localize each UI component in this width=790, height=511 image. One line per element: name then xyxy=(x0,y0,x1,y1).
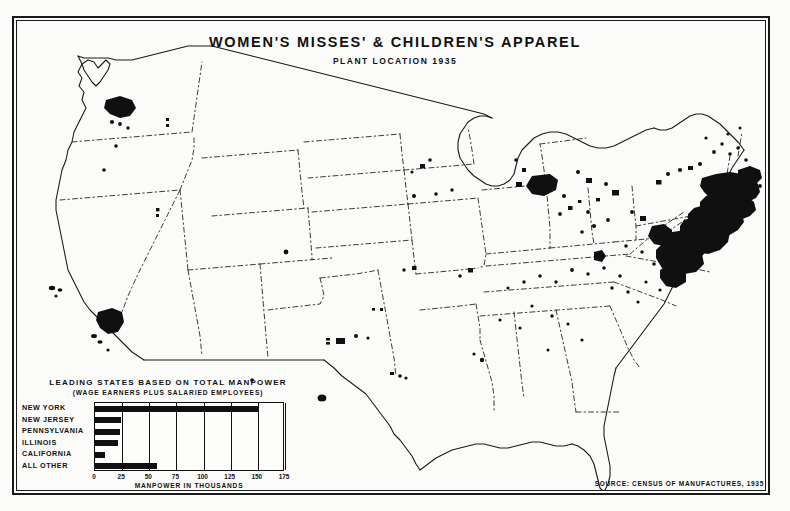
chart-gridline xyxy=(231,403,232,470)
legend-subheading: (WAGE EARNERS PLUS SALARIED EMPLOYEES) xyxy=(46,389,290,396)
chart-gridline xyxy=(149,403,150,470)
source-credit: SOURCE: CENSUS OF MANUFACTURES, 1935 xyxy=(595,480,764,487)
chart-tick-label: 150 xyxy=(252,473,263,480)
chart-gridline xyxy=(122,403,123,470)
legend-heading: LEADING STATES BASED ON TOTAL MANPOWER xyxy=(46,378,290,387)
chart-tick-label: 175 xyxy=(279,473,290,480)
chart-bar xyxy=(95,406,258,412)
chart-tick-label: 125 xyxy=(224,473,235,480)
chart-category-labels: NEW YORKNEW JERSEYPENNSYLVANIAILLINOISCA… xyxy=(22,402,94,471)
chart-gridline xyxy=(258,403,259,470)
chart-tick-label: 100 xyxy=(197,473,208,480)
chart-category-label: ALL OTHER xyxy=(22,460,94,472)
chart-axis-title: MANPOWER IN THOUSANDS xyxy=(94,482,284,489)
chart-category-label: CALIFORNIA xyxy=(22,448,94,460)
chart-tick-label: 0 xyxy=(92,473,96,480)
chart-bar xyxy=(95,429,120,435)
chart-category-label: PENNSYLVANIA xyxy=(22,425,94,437)
chart-tick-label: 75 xyxy=(172,473,179,480)
legend-panel: LEADING STATES BASED ON TOTAL MANPOWER (… xyxy=(22,378,290,490)
chart-gridline xyxy=(204,403,205,470)
chart-category-label: NEW YORK xyxy=(22,402,94,414)
chart-tick-label: 25 xyxy=(118,473,125,480)
chart-tick-label: 50 xyxy=(145,473,152,480)
chart-category-label: NEW JERSEY xyxy=(22,414,94,426)
chart-bar xyxy=(95,440,118,446)
chart-gridline xyxy=(176,403,177,470)
chart-bar xyxy=(95,452,105,458)
chart-gridline xyxy=(285,403,286,470)
bar-chart-plot xyxy=(94,402,284,471)
chart-bar xyxy=(95,417,121,423)
page-root: WOMEN'S MISSES' & CHILDREN'S APPAREL PLA… xyxy=(0,0,790,511)
chart-bar xyxy=(95,463,157,469)
chart-category-label: ILLINOIS xyxy=(22,437,94,449)
